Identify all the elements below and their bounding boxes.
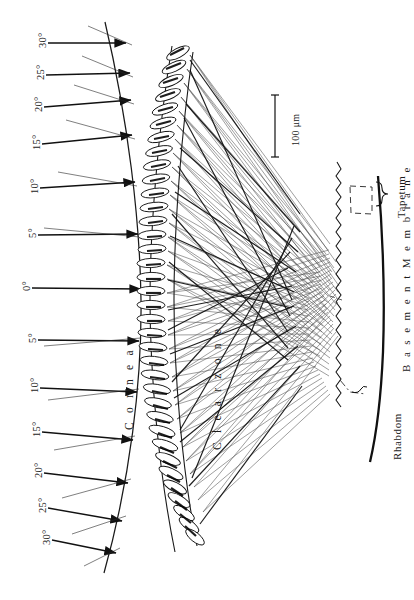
basement-membrane-label: B a s e m e n t M e m b r a n e [401,165,412,372]
scale-bar-label: 100 μm [291,114,301,146]
angle-label-upper-5: 5° [28,228,39,238]
angle-label-lower-10: 10° [30,378,41,393]
cornea-label: C o r n e a [124,347,136,430]
clear-zone-label: C l e a r z o n e [212,326,224,450]
angle-label-lower-30: 30° [42,530,53,545]
angle-label-upper-25: 25° [36,65,47,80]
angle-label-upper-10: 10° [30,179,41,194]
angle-label-upper-20: 20° [34,97,45,112]
angle-label-upper-30: 30° [38,33,49,48]
rhabdom-label: Rhabdom [392,413,403,460]
angle-label-lower-15: 15° [32,422,43,437]
angle-label-upper-15: 15° [32,135,43,150]
angle-label-axis-0: 0° [22,281,33,291]
angle-label-lower-20: 20° [34,463,45,478]
eye-ray-diagram [0,0,414,600]
angle-label-lower-5: 5° [28,333,39,343]
angle-label-lower-25: 25° [38,498,49,513]
diagram-canvas [0,0,414,600]
